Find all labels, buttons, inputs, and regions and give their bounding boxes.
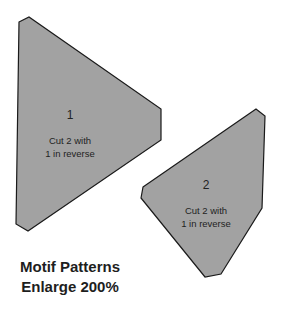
pattern-piece-1-shape [16,17,161,231]
piece-1-note-line1: Cut 2 with [30,134,110,147]
caption-subtitle: Enlarge 200% [0,277,140,297]
caption-title: Motif Patterns [0,257,140,277]
piece-2-number: 2 [196,178,216,192]
piece-2-note: Cut 2 with 1 in reverse [166,204,246,230]
piece-1-note: Cut 2 with 1 in reverse [30,134,110,160]
piece-2-note-line2: 1 in reverse [166,217,246,230]
piece-2-note-line1: Cut 2 with [166,204,246,217]
piece-1-number: 1 [60,108,80,122]
piece-1-note-line2: 1 in reverse [30,147,110,160]
